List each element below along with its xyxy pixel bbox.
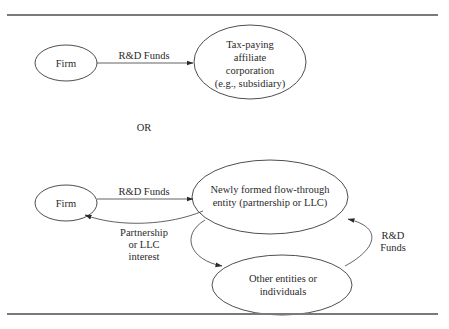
or-separator: OR: [137, 122, 152, 133]
diagram-bottom: Firm R&D Funds Newly formed flow-through…: [35, 160, 406, 315]
edge-firm-to-affiliate: R&D Funds: [97, 50, 193, 63]
firm-label-top: Firm: [56, 58, 76, 69]
firm-label-bottom: Firm: [56, 198, 76, 209]
other-line-1: Other entities or: [249, 273, 318, 284]
affiliate-line-2: affiliate: [234, 52, 267, 63]
edge-entity-to-other: [191, 220, 222, 266]
other-line-2: individuals: [260, 286, 307, 297]
entity-line-1: Newly formed flow-through: [211, 184, 331, 195]
diagram-canvas: Firm R&D Funds Tax-paying affiliate corp…: [0, 0, 449, 329]
edge-other-to-entity: R&D Funds: [345, 219, 406, 266]
edge-label-rd-funds-bottom: R&D Funds: [118, 186, 169, 197]
affiliate-line-3: corporation: [226, 65, 275, 76]
other-entities-node: Other entities or individuals: [212, 255, 352, 315]
interest-line-3: interest: [129, 251, 160, 262]
edge-label-rd-funds-top: R&D Funds: [118, 50, 169, 61]
affiliate-node: Tax-paying affiliate corporation (e.g., …: [194, 25, 306, 99]
edge-entity-to-firm: Partnership or LLC interest: [85, 211, 203, 262]
rd-funds-right-line-1: R&D: [382, 230, 405, 241]
entity-line-2: entity (partnership or LLC): [213, 197, 328, 209]
interest-line-1: Partnership: [120, 227, 168, 238]
affiliate-line-1: Tax-paying: [226, 39, 274, 50]
edge-firm-to-entity: R&D Funds: [97, 186, 193, 199]
diagram-top: Firm R&D Funds Tax-paying affiliate corp…: [35, 25, 306, 99]
affiliate-line-4: (e.g., subsidiary): [215, 78, 286, 90]
rd-funds-right-line-2: Funds: [380, 242, 406, 253]
flow-through-entity-node: Newly formed flow-through entity (partne…: [192, 160, 348, 234]
interest-line-2: or LLC: [128, 239, 159, 250]
firm-node-top: Firm: [35, 45, 97, 81]
